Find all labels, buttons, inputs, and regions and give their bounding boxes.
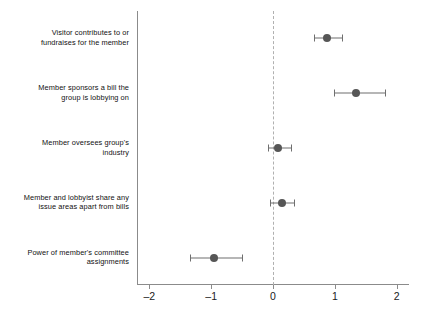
x-tick-label-2: 0 (270, 290, 276, 302)
x-tick-label-1: –1 (205, 290, 217, 302)
x-tick-mark-1 (211, 285, 212, 289)
ci-cap-low (270, 199, 271, 206)
estimate-point (323, 34, 331, 42)
x-tick-mark-2 (273, 285, 274, 289)
estimate-point (352, 89, 360, 97)
ci-cap-low (190, 254, 191, 261)
x-tick-label-0: –2 (144, 290, 156, 302)
y-axis-label-4: Power of member's committee assignments (27, 248, 129, 267)
ci-cap-low (268, 145, 269, 152)
x-tick-mark-0 (149, 285, 150, 289)
y-axis-label-0: Visitor contributes to or fundraises for… (41, 29, 129, 48)
ci-cap-low (334, 90, 335, 97)
y-axis-label-2: Member oversees group's industry (42, 138, 129, 157)
x-tick-label-4: 2 (394, 290, 400, 302)
estimate-point (278, 199, 286, 207)
ci-cap-high (294, 199, 295, 206)
x-tick-mark-4 (397, 285, 398, 289)
x-tick-label-3: 1 (332, 290, 338, 302)
estimate-point (274, 144, 282, 152)
ci-cap-high (342, 35, 343, 42)
ci-cap-high (291, 145, 292, 152)
y-axis-label-3: Member and lobbyist share any issue area… (24, 193, 129, 212)
y-axis-category-labels: Visitor contributes to or fundraises for… (0, 0, 133, 311)
x-axis-ticks: –2 –1 0 1 2 (137, 285, 409, 311)
ci-cap-high (385, 90, 386, 97)
y-axis-label-1: Member sponsors a bill the group is lobb… (38, 84, 129, 103)
y-axis-line (137, 11, 138, 285)
ci-cap-high (242, 254, 243, 261)
estimate-point (210, 254, 218, 262)
coefficient-plot-figure: Visitor contributes to or fundraises for… (0, 0, 422, 311)
ci-cap-low (314, 35, 315, 42)
x-tick-mark-3 (335, 285, 336, 289)
plot-panel (137, 11, 409, 285)
